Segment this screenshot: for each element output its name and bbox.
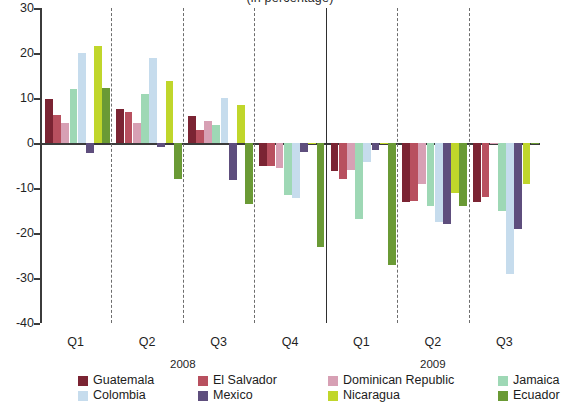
bar bbox=[196, 130, 204, 143]
bar bbox=[94, 46, 102, 143]
y-tick-label: -30 bbox=[2, 271, 34, 285]
legend-item: Nicaragua bbox=[328, 389, 400, 402]
bar bbox=[451, 143, 459, 193]
y-tick-label: -20 bbox=[2, 226, 34, 240]
legend-item: Guatemala bbox=[78, 374, 154, 387]
bar bbox=[317, 143, 325, 247]
bar bbox=[531, 143, 539, 144]
y-tick-mark bbox=[34, 98, 40, 100]
x-axis-quarter-label: Q3 bbox=[496, 335, 513, 349]
quarter-separator bbox=[183, 8, 184, 323]
bar bbox=[141, 94, 149, 143]
x-axis-quarter-label: Q1 bbox=[67, 335, 84, 349]
bar bbox=[473, 143, 481, 202]
legend-label: Mexico bbox=[213, 389, 253, 402]
legend-label: Dominican Republic bbox=[343, 374, 454, 387]
legend-item: Colombia bbox=[78, 389, 146, 402]
bar bbox=[402, 143, 410, 202]
x-axis-quarter-label: Q4 bbox=[282, 335, 299, 349]
bar bbox=[237, 105, 245, 143]
y-tick-label: 10 bbox=[2, 91, 34, 105]
y-tick-mark bbox=[34, 278, 40, 280]
legend-item: Ecuador bbox=[498, 389, 560, 402]
y-tick-label: -10 bbox=[2, 181, 34, 195]
bar bbox=[435, 143, 443, 222]
legend-swatch-icon bbox=[78, 391, 88, 401]
x-axis-quarter-label: Q1 bbox=[353, 335, 370, 349]
bar bbox=[53, 115, 61, 143]
legend-row-top: GuatemalaEl SalvadorDominican RepublicJa… bbox=[78, 374, 578, 389]
bar bbox=[331, 143, 339, 171]
bar bbox=[523, 143, 531, 184]
legend-swatch-icon bbox=[198, 391, 208, 401]
legend-swatch-icon bbox=[198, 376, 208, 386]
bar bbox=[388, 143, 396, 265]
bar bbox=[498, 143, 506, 211]
x-axis-quarter-label: Q2 bbox=[139, 335, 156, 349]
y-tick-mark bbox=[34, 233, 40, 235]
bar bbox=[157, 143, 165, 147]
bar bbox=[459, 143, 467, 206]
bar bbox=[221, 98, 229, 143]
quarter-separator bbox=[397, 8, 398, 323]
bar bbox=[276, 143, 284, 168]
y-tick-label: -40 bbox=[2, 316, 34, 330]
bar bbox=[347, 143, 355, 170]
bar bbox=[125, 112, 133, 144]
legend-item: Jamaica bbox=[498, 374, 560, 387]
quarter-separator bbox=[111, 8, 112, 323]
bar bbox=[482, 143, 490, 197]
bar bbox=[427, 143, 435, 206]
bar bbox=[355, 143, 363, 219]
bar bbox=[308, 143, 316, 144]
x-axis-quarter-label: Q2 bbox=[425, 335, 442, 349]
bar bbox=[45, 99, 53, 143]
bar bbox=[506, 143, 514, 274]
chart-title: (in percentage) bbox=[0, 0, 580, 5]
bar bbox=[204, 121, 212, 143]
y-tick-label: 0 bbox=[2, 136, 34, 150]
bar bbox=[443, 143, 451, 224]
x-axis-year-label: 2008 bbox=[170, 358, 196, 370]
bar bbox=[61, 123, 69, 143]
bar bbox=[245, 143, 253, 204]
bar bbox=[259, 143, 267, 166]
legend-label: Colombia bbox=[93, 389, 146, 402]
bar bbox=[188, 116, 196, 143]
bar bbox=[78, 53, 86, 143]
x-axis-quarter-label: Q3 bbox=[210, 335, 227, 349]
bar bbox=[116, 109, 124, 143]
chart-legend: GuatemalaEl SalvadorDominican RepublicJa… bbox=[78, 374, 578, 404]
bar bbox=[166, 81, 174, 143]
y-tick-label: 20 bbox=[2, 46, 34, 60]
legend-swatch-icon bbox=[328, 376, 338, 386]
y-tick-mark bbox=[34, 53, 40, 55]
bar bbox=[410, 143, 418, 201]
legend-label: Guatemala bbox=[93, 374, 154, 387]
y-axis-line bbox=[40, 8, 42, 323]
bar bbox=[339, 143, 347, 179]
legend-label: Ecuador bbox=[513, 389, 560, 402]
legend-label: Nicaragua bbox=[343, 389, 400, 402]
legend-swatch-icon bbox=[498, 391, 508, 401]
legend-item: Mexico bbox=[198, 389, 253, 402]
legend-item: El Salvador bbox=[198, 374, 277, 387]
bar bbox=[229, 143, 237, 180]
bar bbox=[133, 123, 141, 143]
x-axis-year-label: 2009 bbox=[420, 358, 446, 370]
quarter-separator bbox=[254, 8, 255, 323]
bar bbox=[292, 143, 300, 198]
bar bbox=[284, 143, 292, 195]
bar bbox=[174, 143, 182, 179]
bar bbox=[267, 143, 275, 166]
legend-row-bottom: ColombiaMexicoNicaraguaEcuador bbox=[78, 389, 578, 404]
bar bbox=[490, 143, 498, 144]
legend-label: El Salvador bbox=[213, 374, 277, 387]
plot-area: 3020100-10-20-30-40 bbox=[40, 8, 540, 323]
bar bbox=[514, 143, 522, 229]
y-tick-label: 30 bbox=[2, 1, 34, 15]
bar bbox=[149, 58, 157, 143]
bar bbox=[418, 143, 426, 184]
bar bbox=[212, 125, 220, 143]
legend-swatch-icon bbox=[498, 376, 508, 386]
